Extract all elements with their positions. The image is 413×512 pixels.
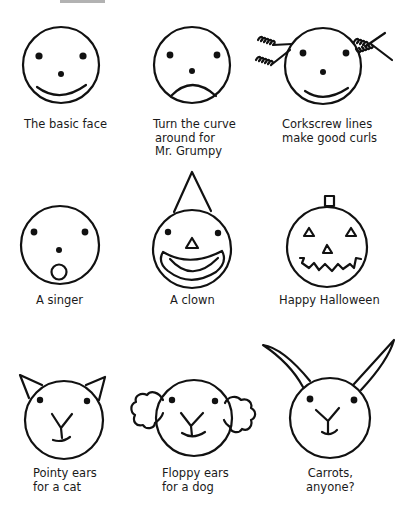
caption-singer-face: A singer xyxy=(36,294,83,308)
caption-jack-o-lantern: Happy Halloween xyxy=(279,294,380,308)
caption-curly-hair-face: Corkscrew lines make good curls xyxy=(282,118,377,145)
dog-face-icon xyxy=(131,380,255,456)
basic-face-icon xyxy=(23,27,99,103)
rabbit-face-icon xyxy=(263,340,394,458)
curly-hair-face-icon xyxy=(256,28,392,104)
caption-grumpy-face: Turn the curve around for Mr. Grumpy xyxy=(153,118,236,159)
caption-basic-face: The basic face xyxy=(24,118,107,132)
clown-face-icon xyxy=(153,172,231,288)
cat-face-icon xyxy=(20,375,105,459)
caption-rabbit-face: Carrots, anyone? xyxy=(306,467,355,494)
grumpy-face-icon xyxy=(154,27,230,103)
drawing-canvas xyxy=(0,0,413,512)
jack-o-lantern-icon xyxy=(287,196,367,287)
caption-dog-face: Floppy ears for a dog xyxy=(162,467,229,494)
caption-cat-face: Pointy ears for a cat xyxy=(33,467,97,494)
singer-face-icon xyxy=(21,206,99,284)
caption-clown-face: A clown xyxy=(170,294,215,308)
